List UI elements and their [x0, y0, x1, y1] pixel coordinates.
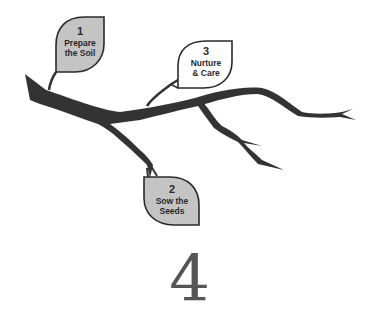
leaf-3-line2: & Care: [192, 68, 219, 78]
leaf-2-number: 2: [146, 183, 198, 195]
leaf-1-label: 1 Prepare the Soil: [56, 25, 104, 58]
leaf-3-label: 3 Nurture & Care: [180, 45, 232, 78]
leaf-1-number: 1: [56, 25, 104, 37]
step-count-number: 4: [0, 244, 379, 314]
leaf-2-line2: Seeds: [159, 206, 184, 216]
main-branch: [25, 74, 356, 178]
leaf-2-line1: Sow the: [156, 196, 189, 206]
leaf-3-line1: Nurture: [191, 58, 222, 68]
stem-leaf-3-tip: [170, 84, 178, 88]
leaf-2-label: 2 Sow the Seeds: [146, 183, 198, 216]
leaf-3-number: 3: [180, 45, 232, 57]
leaf-1-line1: Prepare: [64, 38, 96, 48]
stem-leaf-1: [49, 72, 56, 90]
stem-leaf-3: [147, 80, 178, 106]
leaf-1-line2: the Soil: [65, 48, 96, 58]
